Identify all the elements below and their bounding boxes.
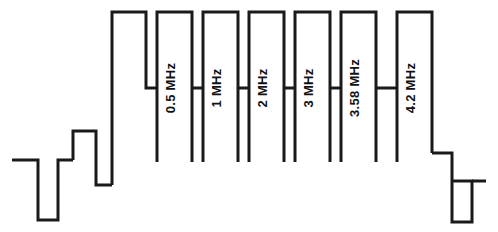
band-2-mhz: 2 MHz [249, 12, 295, 162]
trace-small-step [73, 131, 112, 185]
band-label-2: 2 MHz [255, 68, 270, 107]
band-label-3: 3 MHz [301, 68, 316, 107]
waveform-figure: 0.5 MHz 1 MHz 2 MHz 3 MHz 3.58 MHz [0, 0, 498, 232]
band-0.5-mhz: 0.5 MHz [157, 12, 203, 162]
band-label-4: 3.58 MHz [347, 59, 362, 117]
trace-right-steps [432, 153, 472, 222]
waveform-diagram: 0.5 MHz 1 MHz 2 MHz 3 MHz 3.58 MHz [0, 0, 498, 232]
band-3-mhz: 3 MHz [295, 12, 341, 162]
band-label-5: 4.2 MHz [403, 63, 418, 114]
trace-first-tall-column [112, 12, 157, 185]
band-1-mhz: 1 MHz [203, 12, 249, 162]
band-label-0: 0.5 MHz [163, 63, 178, 114]
band-label-1: 1 MHz [209, 68, 224, 107]
trace-left-baseline [12, 160, 73, 220]
band-4.2-mhz: 4.2 MHz [397, 12, 432, 162]
band-3.58-mhz: 3.58 MHz [341, 12, 397, 162]
